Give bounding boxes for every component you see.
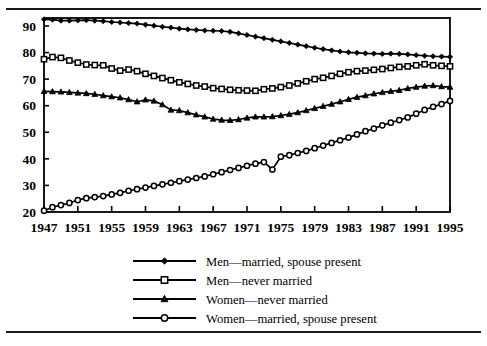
x-tick-label: 1959	[132, 220, 159, 235]
data-point-marker	[253, 161, 258, 166]
y-tick-label: 90	[23, 19, 37, 34]
legend-item-1: Men—never married	[133, 274, 313, 288]
data-point-marker	[312, 77, 317, 82]
data-point-marker	[67, 58, 72, 63]
data-point-marker	[388, 120, 393, 125]
data-point-marker	[439, 102, 444, 107]
series-line-0	[41, 17, 452, 60]
data-point-marker	[253, 88, 258, 93]
data-point-marker	[363, 51, 368, 56]
data-point-marker	[354, 132, 359, 137]
data-point-marker	[101, 63, 106, 68]
data-point-marker	[447, 64, 452, 69]
data-point-marker	[287, 83, 292, 88]
data-point-marker	[380, 51, 385, 56]
data-point-marker	[287, 40, 292, 45]
data-point-marker	[58, 202, 63, 207]
data-point-marker	[134, 187, 139, 192]
data-point-marker	[405, 115, 410, 120]
data-point-marker	[50, 54, 55, 59]
y-tick-label: 20	[23, 205, 37, 220]
data-point-marker	[287, 153, 292, 158]
data-point-marker	[109, 19, 114, 24]
x-tick-label: 1951	[64, 220, 91, 235]
data-point-marker	[278, 154, 283, 159]
legend-item-0: Men—married, spouse present	[133, 255, 361, 269]
data-point-marker	[50, 205, 55, 210]
data-point-marker	[388, 51, 393, 56]
data-point-marker	[321, 143, 326, 148]
data-point-marker	[101, 19, 106, 24]
data-point-marker	[84, 62, 89, 67]
y-tick-label: 50	[23, 125, 37, 140]
legend-label: Women—never married	[206, 293, 328, 307]
series-line-1	[41, 54, 452, 93]
data-point-marker	[236, 88, 241, 93]
data-point-marker	[304, 148, 309, 153]
legend-marker-icon	[161, 258, 167, 264]
data-point-marker	[244, 163, 249, 168]
data-point-marker	[363, 68, 368, 73]
y-tick-label: 80	[23, 45, 37, 60]
data-point-marker	[109, 66, 114, 71]
data-point-marker	[312, 45, 317, 50]
y-tick-label: 70	[23, 72, 37, 87]
data-point-marker	[202, 28, 207, 33]
data-point-marker	[422, 107, 427, 112]
data-point-marker	[219, 170, 224, 175]
data-point-marker	[354, 69, 359, 74]
data-point-marker	[422, 62, 427, 67]
data-point-marker	[134, 21, 139, 26]
data-point-marker	[143, 71, 148, 76]
data-point-marker	[337, 49, 342, 54]
data-point-marker	[414, 53, 419, 58]
data-point-marker	[270, 37, 275, 42]
line-chart: 2030405060708090 19471951195519591963196…	[0, 0, 487, 240]
data-point-marker	[143, 22, 148, 27]
x-tick-label: 1995	[437, 220, 464, 235]
data-point-marker	[261, 87, 266, 92]
data-point-marker	[109, 192, 114, 197]
data-point-marker	[160, 75, 165, 80]
data-point-marker	[126, 188, 131, 193]
x-tick-label: 1979	[301, 220, 328, 235]
data-point-marker	[405, 64, 410, 69]
data-point-marker	[143, 185, 148, 190]
data-point-marker	[92, 62, 97, 67]
data-point-marker	[304, 44, 309, 49]
data-point-marker	[227, 167, 232, 172]
x-tick-label: 1975	[267, 220, 294, 235]
data-point-marker	[151, 73, 156, 78]
legend-marker-icon	[161, 277, 167, 283]
data-point-marker	[41, 208, 46, 213]
data-point-marker	[118, 190, 123, 195]
data-point-marker	[261, 36, 266, 41]
data-point-marker	[194, 83, 199, 88]
bottom-divider-rule	[6, 331, 481, 333]
data-point-marker	[371, 67, 376, 72]
x-tick-label: 1983	[335, 220, 362, 235]
data-point-marker	[101, 193, 106, 198]
data-point-marker	[194, 175, 199, 180]
data-point-marker	[270, 86, 275, 91]
data-point-marker	[422, 53, 427, 58]
data-point-marker	[118, 20, 123, 25]
y-tick-label: 30	[23, 178, 37, 193]
legend-item-3: Women—married, spouse present	[133, 312, 377, 326]
data-point-marker	[67, 200, 72, 205]
data-point-marker	[41, 57, 46, 62]
data-point-marker	[371, 51, 376, 56]
data-point-marker	[185, 177, 190, 182]
data-point-marker	[447, 98, 452, 103]
data-point-marker	[278, 84, 283, 89]
data-point-marker	[295, 81, 300, 86]
data-point-marker	[202, 84, 207, 89]
data-point-marker	[202, 174, 207, 179]
data-point-marker	[295, 150, 300, 155]
data-series-group	[41, 17, 453, 214]
data-point-marker	[244, 88, 249, 93]
data-point-marker	[380, 123, 385, 128]
data-point-marker	[227, 87, 232, 92]
chart-legend: Men—married, spouse presentMen—never mar…	[0, 248, 487, 328]
data-point-marker	[397, 51, 402, 56]
